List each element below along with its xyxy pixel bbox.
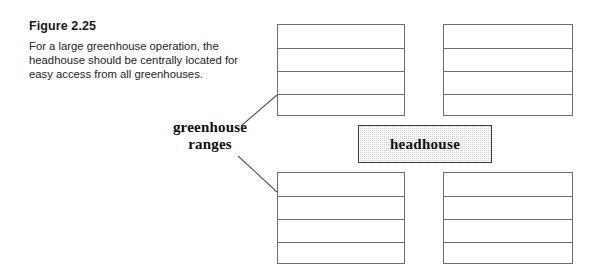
lower-right-block-bay-divider — [444, 196, 572, 197]
lower-left-block-bay-divider — [278, 242, 404, 243]
lower-right-block — [443, 172, 573, 264]
upper-left-block-bay-divider — [278, 48, 404, 49]
headhouse-label: headhouse — [390, 136, 460, 153]
lower-right-block-bay-divider — [444, 242, 572, 243]
upper-left-block-bay-divider — [278, 94, 404, 95]
lower-right-block-bay-divider — [444, 219, 572, 220]
figure-page: Figure 2.25 For a large greenhouse opera… — [0, 0, 597, 271]
upper-right-block-bay-divider — [444, 48, 572, 49]
lower-left-block — [277, 172, 405, 264]
upper-left-block — [277, 24, 405, 116]
greenhouse-layout-diagram: greenhouse ranges headhouse — [0, 0, 597, 271]
upper-right-block — [443, 24, 573, 116]
leader-to-lower-range — [238, 156, 277, 192]
upper-right-block-bay-divider — [444, 71, 572, 72]
greenhouse-ranges-label: greenhouse ranges — [150, 119, 270, 153]
lower-left-block-bay-divider — [278, 219, 404, 220]
ranges-label-line-2: ranges — [150, 136, 270, 153]
upper-right-block-bay-divider — [444, 94, 572, 95]
headhouse-box: headhouse — [358, 125, 492, 163]
ranges-label-line-1: greenhouse — [150, 119, 270, 136]
lower-left-block-bay-divider — [278, 196, 404, 197]
upper-left-block-bay-divider — [278, 71, 404, 72]
